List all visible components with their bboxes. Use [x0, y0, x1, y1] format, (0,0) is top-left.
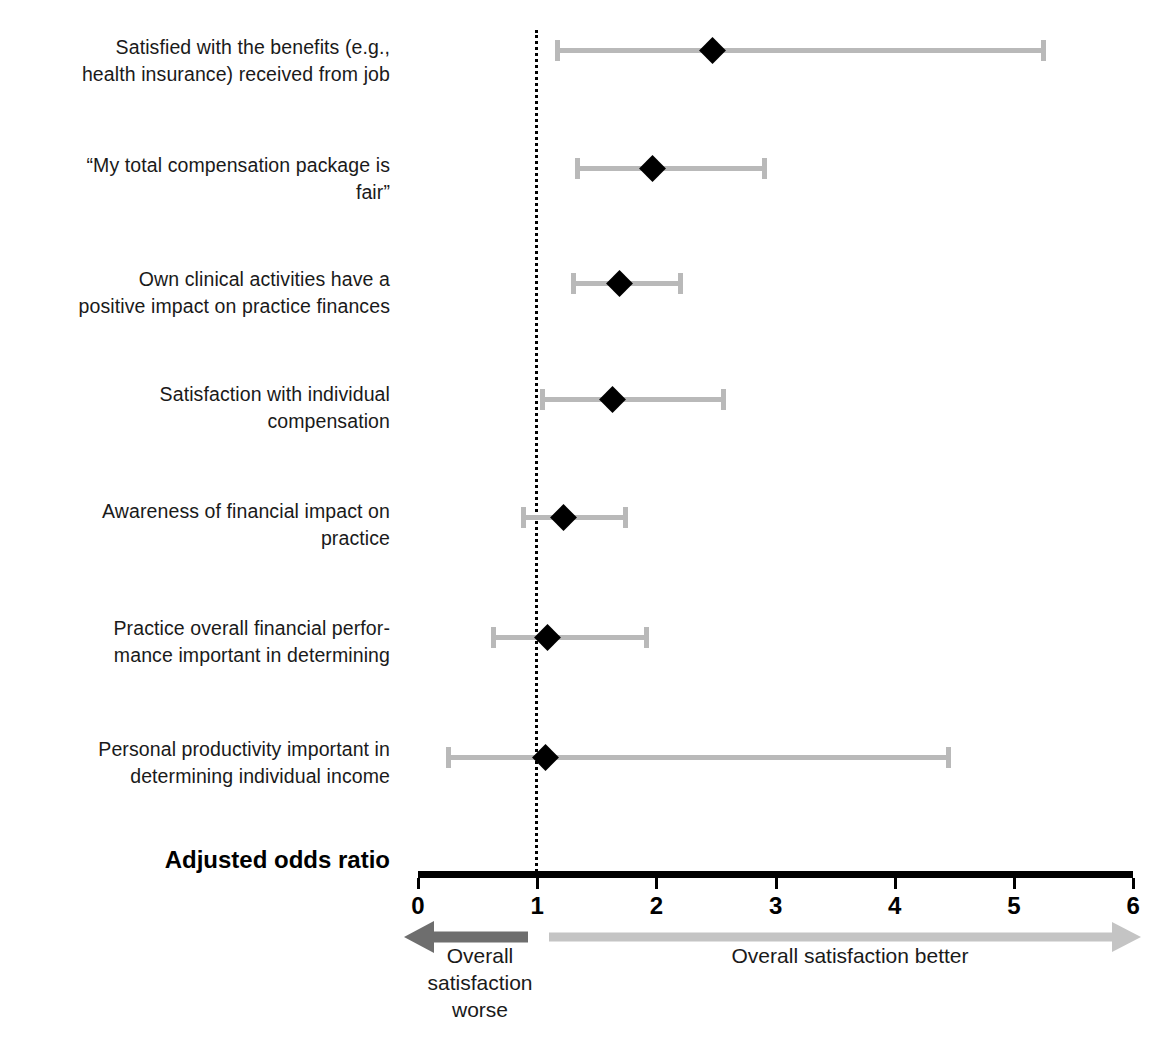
ci-cap-high-6: [946, 747, 951, 768]
forest-row-1: [0, 155, 1158, 181]
ci-line-5: [493, 635, 646, 640]
point-estimate-6: [532, 744, 559, 771]
row-label-3-line2: compensation: [50, 408, 390, 435]
point-estimate-5: [534, 624, 561, 651]
axis-tick-1: [536, 878, 539, 889]
point-estimate-1: [639, 155, 666, 182]
forest-row-4: [0, 504, 1158, 530]
point-estimate-4: [550, 504, 577, 531]
row-label-2-line2: positive impact on practice finances: [50, 293, 390, 320]
axis-tick-6: [1132, 878, 1135, 889]
ci-cap-low-1: [575, 158, 580, 179]
point-estimate-3: [599, 386, 626, 413]
point-estimate-0: [699, 37, 726, 64]
row-label-1-line2: fair”: [50, 179, 390, 206]
ci-line-0: [557, 48, 1042, 53]
axis-tick-5: [1013, 878, 1016, 889]
ci-line-1: [577, 166, 764, 171]
ci-cap-high-0: [1041, 40, 1046, 61]
ci-cap-high-5: [644, 627, 649, 648]
ci-cap-low-6: [446, 747, 451, 768]
forest-row-6: [0, 744, 1158, 770]
forest-row-0: [0, 37, 1158, 63]
legend-worse-label: Overall satisfaction worse: [420, 942, 540, 1023]
ci-cap-high-4: [623, 507, 628, 528]
axis-tick-3: [775, 878, 778, 889]
ci-cap-high-2: [678, 273, 683, 294]
forest-row-3: [0, 386, 1158, 412]
forest-plot: Satisfied with the benefits (e.g., healt…: [0, 0, 1158, 1064]
axis-tick-0: [417, 878, 420, 889]
ci-cap-low-5: [491, 627, 496, 648]
ci-cap-high-3: [721, 389, 726, 410]
axis-tick-2: [655, 878, 658, 889]
ci-cap-low-4: [521, 507, 526, 528]
ci-cap-low-0: [555, 40, 560, 61]
forest-row-5: [0, 624, 1158, 650]
row-label-0-line2: health insurance) received from job: [50, 61, 390, 88]
x-axis-bar: [418, 871, 1133, 878]
ci-cap-low-2: [571, 273, 576, 294]
axis-title: Adjusted odds ratio: [40, 846, 390, 874]
point-estimate-2: [606, 270, 633, 297]
forest-row-2: [0, 270, 1158, 296]
axis-tick-4: [894, 878, 897, 889]
legend-better-label: Overall satisfaction better: [560, 942, 1140, 969]
ci-line-6: [448, 755, 949, 760]
ci-line-3: [542, 397, 723, 402]
ci-cap-high-1: [762, 158, 767, 179]
ci-cap-low-3: [540, 389, 545, 410]
